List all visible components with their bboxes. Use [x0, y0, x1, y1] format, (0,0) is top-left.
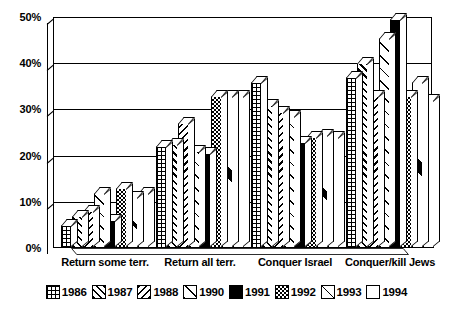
bar-group [251, 17, 339, 255]
legend-label: 1988 [153, 286, 178, 298]
bar-side-face [411, 91, 418, 247]
y-axis: 0%10%20%30%40%50% [0, 0, 44, 272]
bar-side-face [422, 77, 429, 247]
x-tick-label: Conquer/kill Jews [324, 256, 453, 268]
bar-side-face [232, 91, 239, 247]
bar-side-face [338, 132, 345, 247]
bar-side-face [294, 111, 301, 247]
bar [61, 225, 72, 248]
x-axis-category-labels: Return some terr.Return all terr.Conquer… [0, 256, 453, 274]
legend-item-1992[interactable]: 1992 [275, 285, 316, 299]
legend-item-1986[interactable]: 1986 [46, 285, 87, 299]
bar-side-face [433, 95, 440, 247]
bar-side-face [389, 33, 396, 247]
bar-side-face [327, 130, 334, 247]
legend-label: 1986 [62, 286, 87, 298]
legend-swatch-icon [275, 285, 289, 299]
bar-side-face [400, 14, 407, 247]
plot-area: 0%10%20%30%40%50% Return some terr.Retur… [0, 0, 453, 272]
bar-side-face [356, 72, 363, 247]
legend-swatch-icon [137, 285, 151, 299]
y-tick-label: 20% [20, 151, 41, 162]
bar-groups [47, 17, 432, 255]
bar-side-face [367, 58, 374, 247]
bar-side-face [199, 146, 206, 247]
bar-side-face [188, 118, 195, 247]
y-tick-label: 10% [20, 197, 41, 208]
bar-side-face [82, 211, 89, 247]
bar-side-face [177, 139, 184, 247]
y-tick-label: 30% [20, 104, 41, 115]
bar-side-face [93, 206, 100, 247]
plot-box [47, 17, 432, 254]
bar-side-face [126, 183, 133, 247]
bar-side-face [261, 77, 268, 247]
legend-item-1987[interactable]: 1987 [92, 285, 133, 299]
chart-legend: 19861987198819901991199219931994 [0, 280, 453, 304]
bar-group [156, 17, 244, 255]
grouped-bar-chart: 0%10%20%30%40%50% Return some terr.Retur… [0, 0, 453, 324]
bar-group [61, 17, 149, 255]
legend-label: 1991 [245, 286, 270, 298]
bar [346, 77, 357, 248]
legend-label: 1987 [108, 286, 133, 298]
bar-side-face [104, 188, 111, 247]
legend-item-1991[interactable]: 1991 [229, 285, 270, 299]
bar-side-face [283, 107, 290, 247]
legend-label: 1990 [199, 286, 224, 298]
legend-item-1994[interactable]: 1994 [366, 285, 407, 299]
legend-swatch-icon [321, 285, 335, 299]
legend-swatch-icon [46, 285, 60, 299]
legend-label: 1994 [382, 286, 407, 298]
y-tick-label: 40% [20, 58, 41, 69]
bar-side-face [166, 142, 173, 247]
y-tick-label: 50% [20, 12, 41, 23]
bar [251, 82, 262, 248]
chart-floor [47, 248, 433, 255]
bar-side-face [221, 91, 228, 247]
bar-side-face [243, 91, 250, 247]
legend-item-1988[interactable]: 1988 [137, 285, 178, 299]
bar-side-face [210, 148, 217, 247]
bar-side-face [272, 100, 279, 247]
bar-side-face [378, 91, 385, 247]
legend-item-1990[interactable]: 1990 [183, 285, 224, 299]
bar-side-face [305, 137, 312, 247]
y-tick-label: 0% [26, 243, 42, 254]
bar-side-face [148, 188, 155, 247]
legend-swatch-icon [229, 285, 243, 299]
legend-item-1993[interactable]: 1993 [321, 285, 362, 299]
bar-side-face [316, 132, 323, 247]
legend-swatch-icon [183, 285, 197, 299]
bar-side-face [137, 192, 144, 247]
legend-label: 1992 [291, 286, 316, 298]
bar [156, 146, 167, 248]
legend-swatch-icon [366, 285, 380, 299]
legend-label: 1993 [337, 286, 362, 298]
legend-swatch-icon [92, 285, 106, 299]
bar-group [346, 17, 434, 255]
